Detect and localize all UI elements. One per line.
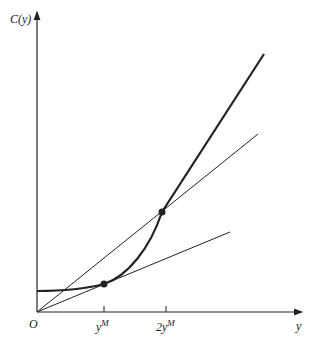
origin-label: O bbox=[29, 318, 38, 330]
point-yM bbox=[101, 281, 108, 288]
diagram-canvas bbox=[0, 0, 310, 342]
y-axis-label: C(y) bbox=[10, 13, 31, 25]
x-axis-label: y bbox=[296, 320, 301, 332]
point-2yM bbox=[159, 209, 166, 216]
tangent-at-yM bbox=[37, 232, 230, 312]
ray-through-2yM bbox=[37, 134, 258, 312]
tick-label-yM: yM bbox=[96, 321, 109, 333]
tick-label-2yM: 2yM bbox=[156, 321, 175, 333]
cost-curve bbox=[37, 54, 264, 291]
